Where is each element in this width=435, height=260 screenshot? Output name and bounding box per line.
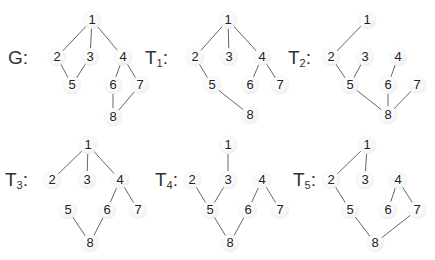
- graph-g-node-8: 8: [104, 108, 122, 126]
- graph-t3-node-3: 3: [78, 171, 96, 189]
- graph-t2-node-8: 8: [379, 106, 397, 124]
- graph-t2-node-6: 6: [379, 76, 397, 94]
- graph-t4-node-3: 3: [219, 171, 237, 189]
- graph-label-g: G:: [8, 47, 28, 69]
- graph-t5-node-5: 5: [341, 201, 359, 219]
- edges-layer: [0, 0, 435, 260]
- graph-g-node-7: 7: [131, 76, 149, 94]
- graph-t4-node-4: 4: [253, 171, 271, 189]
- graph-t5-node-8: 8: [366, 234, 384, 252]
- graph-t5-node-3: 3: [356, 171, 374, 189]
- graph-t2-node-1: 1: [358, 11, 376, 29]
- graph-t5-node-2: 2: [322, 171, 340, 189]
- graph-t2-node-3: 3: [356, 48, 374, 66]
- graph-t2-node-5: 5: [341, 76, 359, 94]
- graph-t1-node-8: 8: [241, 106, 259, 124]
- graph-t4-node-7: 7: [271, 201, 289, 219]
- graph-label-t3: T3:: [5, 169, 28, 191]
- graph-t1-edges: [195, 20, 280, 115]
- graph-t4-node-6: 6: [239, 201, 257, 219]
- graph-t3-node-8: 8: [81, 234, 99, 252]
- graph-t5-node-6: 6: [379, 201, 397, 219]
- graph-g-node-3: 3: [81, 48, 99, 66]
- graph-t1-node-5: 5: [203, 76, 221, 94]
- graph-t1-node-3: 3: [220, 48, 238, 66]
- graph-t5-node-4: 4: [389, 171, 407, 189]
- graph-t1-node-1: 1: [219, 11, 237, 29]
- graph-t5-node-7: 7: [408, 201, 426, 219]
- graph-t1-node-2: 2: [186, 48, 204, 66]
- graph-t5-node-1: 1: [358, 136, 376, 154]
- graph-t3-edges: [52, 145, 138, 243]
- graph-t3-node-7: 7: [129, 201, 147, 219]
- graph-t4-node-2: 2: [183, 171, 201, 189]
- graph-g-node-1: 1: [83, 11, 101, 29]
- graph-t3-node-6: 6: [98, 201, 116, 219]
- graph-t1-node-6: 6: [241, 76, 259, 94]
- graph-t3-node-2: 2: [43, 171, 61, 189]
- graph-label-t5: T5:: [293, 169, 316, 191]
- graph-t1-node-4: 4: [253, 48, 271, 66]
- graph-label-t4: T4:: [155, 169, 178, 191]
- graph-t4-node-5: 5: [201, 201, 219, 219]
- graph-g-node-5: 5: [63, 76, 81, 94]
- graph-t2-node-2: 2: [322, 48, 340, 66]
- graph-t2-node-7: 7: [408, 76, 426, 94]
- graph-t2-node-4: 4: [389, 48, 407, 66]
- graph-t4-node-1: 1: [219, 136, 237, 154]
- graph-t3-node-4: 4: [111, 171, 129, 189]
- graph-label-t1: T1:: [145, 47, 168, 69]
- graph-t4-edges: [192, 145, 280, 243]
- graph-t4-node-8: 8: [221, 234, 239, 252]
- graph-diagram-canvas: G:12345678T1:12345678T2:12345678T3:12345…: [0, 0, 435, 260]
- graph-label-t2: T2:: [288, 47, 311, 69]
- graph-t3-node-5: 5: [59, 201, 77, 219]
- graph-g-node-6: 6: [104, 76, 122, 94]
- graph-t1-node-7: 7: [271, 76, 289, 94]
- graph-t2-edges: [331, 20, 417, 115]
- graph-g-edges: [57, 20, 140, 117]
- graph-t3-node-1: 1: [79, 136, 97, 154]
- graph-t5-edges: [331, 145, 417, 243]
- graph-g-node-4: 4: [114, 48, 132, 66]
- graph-g-node-2: 2: [48, 48, 66, 66]
